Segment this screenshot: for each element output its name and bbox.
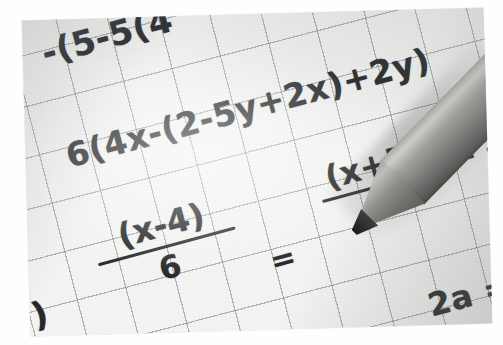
photograph: -(5-5(4 6(4x-(2-5y+2x)+2y) (x-4) 6 = (x+… <box>22 8 493 337</box>
photo-frame: -(5-5(4 6(4x-(2-5y+2x)+2y) (x-4) 6 = (x+… <box>0 0 503 345</box>
